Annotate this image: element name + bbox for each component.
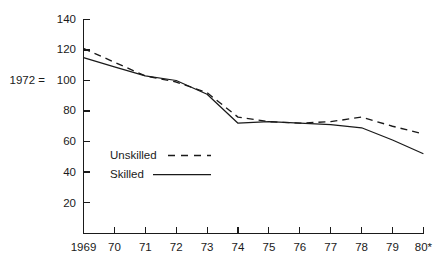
x-tick-label-80: 80* — [415, 241, 433, 253]
legend-label-unskilled: Unskilled — [110, 149, 157, 161]
x-tick-label-76: 76 — [293, 241, 306, 253]
x-axis-tick-marks — [84, 227, 424, 234]
x-tick-label-74: 74 — [232, 241, 245, 253]
y-axis-tick-labels: 140 120 100 80 60 40 20 — [57, 13, 76, 209]
x-tick-label-75: 75 — [263, 241, 276, 253]
line-chart: 140 120 100 80 60 40 20 1972 = — [0, 0, 445, 266]
y-tick-label-40: 40 — [63, 166, 76, 178]
y-tick-label-140: 140 — [57, 13, 76, 25]
y-tick-label-100: 100 — [57, 74, 76, 86]
x-tick-label-77: 77 — [324, 241, 337, 253]
chart-legend: Unskilled Skilled — [110, 149, 211, 180]
x-tick-label-70: 70 — [108, 241, 121, 253]
chart-canvas: 140 120 100 80 60 40 20 1972 = — [0, 0, 445, 266]
x-tick-label-79: 79 — [386, 241, 399, 253]
index-base-note: 1972 = — [10, 74, 46, 86]
series-line-skilled — [84, 58, 424, 154]
x-tick-label-71: 71 — [139, 241, 152, 253]
x-tick-label-78: 78 — [355, 241, 368, 253]
x-tick-label-1969: 1969 — [71, 241, 97, 253]
y-tick-label-20: 20 — [63, 197, 76, 209]
x-tick-label-73: 73 — [201, 241, 214, 253]
y-tick-label-60: 60 — [63, 135, 76, 147]
series-line-unskilled — [84, 48, 424, 133]
legend-label-skilled: Skilled — [110, 168, 144, 180]
y-tick-label-120: 120 — [57, 43, 76, 55]
x-tick-label-72: 72 — [170, 241, 183, 253]
y-axis-tick-marks — [84, 20, 91, 203]
x-axis-tick-labels: 1969 70 71 72 73 74 75 76 77 78 79 80* — [71, 241, 433, 253]
y-tick-label-80: 80 — [63, 104, 76, 116]
